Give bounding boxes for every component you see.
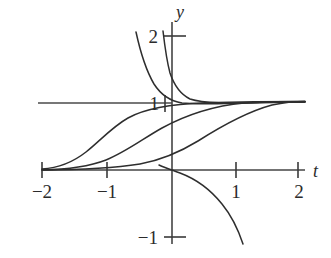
y-axis-label: y: [174, 2, 184, 22]
y-label-2: 2: [149, 26, 159, 47]
solution-curves-figure: −2 −1 1 2 2 1 −1 y t: [0, 0, 331, 258]
y-label-neg1: −1: [138, 227, 158, 248]
axes-group: [42, 22, 305, 244]
curve-sigmoid-middle: [42, 102, 305, 170]
curve-sigmoid-left: [42, 102, 305, 169]
x-label-pos1: 1: [231, 181, 241, 202]
curve-upper-inner: [163, 31, 305, 103]
x-label-neg2: −2: [32, 181, 52, 202]
axis-name-labels-group: y t: [174, 2, 319, 181]
curve-upper-outer: [136, 32, 305, 104]
solution-curves-group: [42, 31, 305, 244]
tick-labels-group: −2 −1 1 2 2 1 −1: [32, 26, 304, 248]
t-axis-label: t: [313, 161, 319, 181]
curve-sigmoid-right: [42, 102, 305, 170]
plot-svg: −2 −1 1 2 2 1 −1 y t: [0, 0, 331, 258]
x-label-pos2: 2: [294, 181, 304, 202]
y-ticks-group: [164, 36, 186, 237]
y-label-1: 1: [150, 93, 160, 114]
x-label-neg1: −1: [97, 181, 117, 202]
